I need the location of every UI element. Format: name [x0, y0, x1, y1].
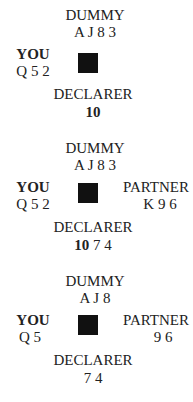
- bridge-diagram-3: DUMMY A J 8 YOU Q 5 PARTNER 9 6 DECLARER…: [0, 266, 193, 400]
- west-label: YOU: [13, 312, 53, 328]
- north-label: DUMMY: [55, 140, 135, 156]
- played-card: 10: [86, 104, 101, 120]
- table-square-icon: [78, 53, 98, 73]
- north-label: DUMMY: [55, 273, 135, 289]
- south-cards: 7 4: [48, 370, 138, 386]
- east-cards: 9 6: [133, 329, 193, 345]
- south-label: DECLARER: [48, 86, 138, 102]
- south-label: DECLARER: [48, 352, 138, 368]
- west-label: YOU: [13, 179, 53, 195]
- north-label: DUMMY: [55, 7, 135, 23]
- north-cards: A J 8 3: [55, 24, 135, 40]
- north-cards: A J 8: [55, 290, 135, 306]
- south-label: DECLARER: [48, 219, 138, 235]
- west-label: YOU: [13, 46, 53, 62]
- west-cards: Q 5: [10, 329, 50, 345]
- south-cards: 10: [48, 104, 138, 120]
- played-card: 10: [74, 237, 89, 253]
- remaining-cards: 7 4: [89, 237, 112, 253]
- bridge-diagram-2: DUMMY A J 8 3 YOU Q 5 2 PARTNER K 9 6 DE…: [0, 133, 193, 267]
- table-square-icon: [78, 315, 98, 335]
- east-label: PARTNER: [118, 312, 193, 328]
- north-cards: A J 8 3: [55, 157, 135, 173]
- bridge-diagram-1: DUMMY A J 8 3 YOU Q 5 2 DECLARER 10: [0, 0, 193, 134]
- east-label: PARTNER: [118, 179, 193, 195]
- east-cards: K 9 6: [130, 196, 190, 212]
- west-cards: Q 5 2: [13, 196, 53, 212]
- table-square-icon: [78, 183, 98, 203]
- west-cards: Q 5 2: [13, 63, 53, 79]
- south-cards: 10 7 4: [48, 237, 138, 253]
